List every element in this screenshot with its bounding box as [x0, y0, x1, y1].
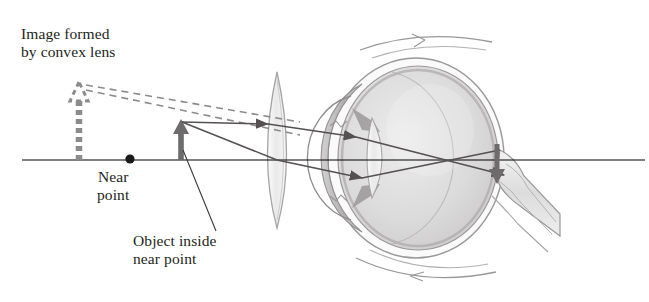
label-near-point: Near point — [97, 168, 129, 205]
muscle-tendon-top-inner — [372, 46, 486, 58]
leader-line-object — [183, 150, 216, 231]
near-point-dot — [125, 154, 134, 163]
optic-nerve-tube — [496, 150, 560, 236]
figure-canvas: Image formed by convex lens Near point O… — [0, 0, 649, 302]
convex-lens — [268, 72, 287, 228]
object-arrow — [173, 119, 189, 160]
label-image-formed-by-convex-lens: Image formed by convex lens — [21, 25, 115, 62]
dashed-extension-lower — [86, 90, 300, 135]
ray-upper-incident — [182, 122, 268, 124]
dashed-ray-extensions — [86, 85, 300, 135]
globe-highlight — [386, 84, 474, 176]
label-object-inside-near-point: Object inside near point — [133, 232, 217, 269]
object-arrow-head — [173, 119, 189, 134]
optic-nerve — [492, 150, 560, 252]
eyeball — [307, 34, 504, 281]
virtual-image-arrow — [70, 82, 88, 160]
muscle-tendon-bottom — [356, 258, 496, 278]
dashed-extension-upper — [86, 85, 300, 122]
muscle-tendon-top-tip — [412, 34, 425, 47]
virtual-image-head — [70, 82, 88, 101]
